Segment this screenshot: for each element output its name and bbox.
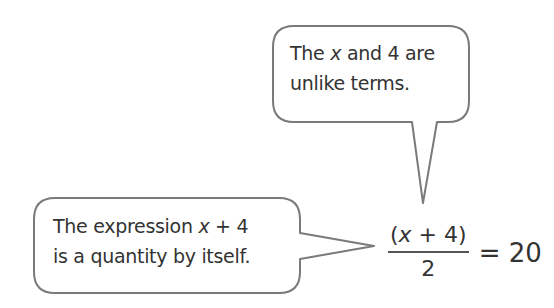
variable-x: x: [330, 42, 341, 64]
fraction: (x + 4) 2: [388, 222, 469, 283]
bottom-bubble-line1: The expression x + 4: [53, 211, 250, 241]
fraction-numerator: (x + 4): [388, 222, 469, 253]
equation: (x + 4) 2 = 20: [388, 222, 542, 283]
equation-rhs: = 20: [479, 238, 542, 268]
top-bubble-line2: unlike terms.: [290, 68, 435, 98]
bottom-bubble-text: The expression x + 4 is a quantity by it…: [53, 211, 250, 271]
bottom-bubble-line2: is a quantity by itself.: [53, 241, 250, 271]
top-bubble-text: The x and 4 are unlike terms.: [290, 38, 435, 98]
variable-x: x: [399, 222, 412, 247]
variable-x: x: [198, 215, 209, 237]
top-bubble-line1: The x and 4 are: [290, 38, 435, 68]
fraction-denominator: 2: [421, 253, 435, 283]
